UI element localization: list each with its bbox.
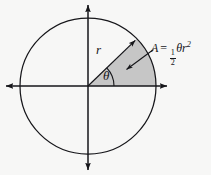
fraction-numerator: 1	[170, 49, 176, 57]
angle-theta-label: θ	[103, 69, 109, 82]
formula-exponent: 2	[187, 40, 191, 49]
fraction-denominator: 2	[170, 58, 176, 67]
area-formula-label: A=12θr2	[151, 41, 191, 67]
equals-sign: =	[160, 41, 167, 55]
radius-label: r	[96, 43, 101, 56]
figure-canvas	[0, 0, 211, 175]
sector-area-figure: r θ A=12θr2	[0, 0, 211, 175]
one-half-fraction: 12	[170, 49, 176, 67]
area-symbol: A	[151, 41, 158, 55]
